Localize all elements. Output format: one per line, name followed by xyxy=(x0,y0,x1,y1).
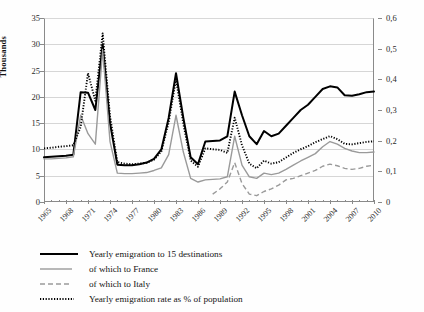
x-axis-tickmark xyxy=(367,200,368,202)
x-axis-tickmark xyxy=(308,200,309,204)
x-axis-tickmark xyxy=(205,200,206,202)
y-axis-left-tick: 25 xyxy=(32,66,41,76)
series-line-total xyxy=(44,44,374,165)
x-axis-tickmark xyxy=(359,200,360,202)
y-axis-right-tickmark xyxy=(378,110,382,111)
legend-label: Yearly emigration to 15 destinations xyxy=(89,249,222,259)
y-axis-right-tick: 0,3 xyxy=(386,105,397,115)
x-axis-tickmark xyxy=(132,200,133,204)
x-axis-tick: 1965 xyxy=(36,206,54,224)
x-axis-tick: 1977 xyxy=(124,206,142,224)
series-line-italy xyxy=(213,163,374,196)
y-axis-right-tick: 0,1 xyxy=(386,166,397,176)
x-axis-tickmark xyxy=(73,200,74,202)
x-axis-tickmark xyxy=(213,200,214,202)
x-axis-tickmark xyxy=(323,200,324,202)
y-axis-left-tick: 20 xyxy=(32,92,41,102)
x-axis-tickmark xyxy=(227,200,228,202)
legend-item[interactable]: Yearly emigration rate as % of populatio… xyxy=(38,291,368,306)
legend-key-rate xyxy=(38,294,84,304)
x-axis-tickmark xyxy=(51,200,52,202)
y-axis-right-tick: 0,5 xyxy=(386,44,397,54)
x-axis-tick: 1968 xyxy=(58,206,76,224)
y-axis-right-labels: 00,10,20,30,40,50,6 xyxy=(378,18,406,202)
x-axis-tickmark xyxy=(264,200,265,204)
chart-legend: Yearly emigration to 15 destinationsof w… xyxy=(38,246,368,306)
x-axis-tickmark xyxy=(161,200,162,202)
y-axis-right-tickmark xyxy=(378,141,382,142)
x-axis-tickmark xyxy=(117,200,118,202)
x-axis-tick: 1992 xyxy=(234,206,252,224)
x-axis-tickmark xyxy=(59,200,60,202)
x-axis-tickmark xyxy=(242,200,243,204)
x-axis-tickmark xyxy=(110,200,111,204)
x-axis-tickmark xyxy=(147,200,148,202)
x-axis-tickmark xyxy=(139,200,140,202)
y-axis-right-tickmark xyxy=(378,171,382,172)
x-axis-tickmark xyxy=(337,200,338,202)
series-layer xyxy=(44,18,374,202)
x-axis-tick: 1995 xyxy=(256,206,274,224)
x-axis-tickmark xyxy=(235,200,236,202)
x-axis-tickmark xyxy=(345,200,346,202)
x-axis-tick: 2001 xyxy=(300,206,318,224)
x-axis-tickmark xyxy=(154,200,155,204)
x-axis-tickmark xyxy=(293,200,294,202)
chart-root: Thousands 05101520253035 00,10,20,30,40,… xyxy=(0,0,424,312)
y-axis-right-tick: 0,4 xyxy=(386,74,397,84)
series-line-rate xyxy=(44,33,374,168)
legend-key-italy xyxy=(38,279,84,289)
x-axis-tick: 2010 xyxy=(366,206,384,224)
x-axis-tickmark xyxy=(191,200,192,202)
x-axis-tickmark xyxy=(271,200,272,202)
x-axis-tickmark xyxy=(125,200,126,202)
x-axis-tickmark xyxy=(249,200,250,202)
legend-label: of which to Italy xyxy=(89,279,150,289)
x-axis-tickmark xyxy=(169,200,170,202)
x-axis-tickmark xyxy=(44,200,45,204)
x-axis-tickmark xyxy=(103,200,104,202)
x-axis-tick: 1971 xyxy=(80,206,98,224)
y-axis-left-tick: 30 xyxy=(32,39,41,49)
legend-key-france xyxy=(38,264,84,274)
x-axis-tickmark xyxy=(257,200,258,202)
y-axis-title: Thousands xyxy=(0,36,14,78)
x-axis-tick: 2004 xyxy=(322,206,340,224)
x-axis-tickmark xyxy=(315,200,316,202)
x-axis-tickmark xyxy=(301,200,302,202)
x-axis-tick: 1983 xyxy=(168,206,186,224)
plot-area xyxy=(44,18,374,202)
x-axis-tickmark xyxy=(81,200,82,202)
x-axis-tick: 2007 xyxy=(344,206,362,224)
x-axis-tick: 1974 xyxy=(102,206,120,224)
legend-key-total xyxy=(38,249,84,259)
x-axis-tickmark xyxy=(374,200,375,204)
x-axis-tickmark xyxy=(183,200,184,202)
x-axis-tickmark xyxy=(352,200,353,204)
x-axis-tickmark xyxy=(279,200,280,202)
y-axis-right-tick: 0,6 xyxy=(386,13,397,23)
x-axis-tickmark xyxy=(88,200,89,204)
legend-item[interactable]: of which to Italy xyxy=(38,276,368,291)
y-axis-right-tickmark xyxy=(378,79,382,80)
legend-item[interactable]: of which to France xyxy=(38,261,368,276)
legend-label: Yearly emigration rate as % of populatio… xyxy=(89,294,243,304)
y-axis-right-tickmark xyxy=(378,202,382,203)
legend-item[interactable]: Yearly emigration to 15 destinations xyxy=(38,246,368,261)
y-axis-left-labels: 05101520253035 xyxy=(16,18,40,202)
y-axis-right-tick: 0 xyxy=(386,197,390,207)
series-line-france xyxy=(44,50,374,182)
x-axis-tick: 1989 xyxy=(212,206,230,224)
x-axis-tickmark xyxy=(330,200,331,204)
legend-label: of which to France xyxy=(89,264,158,274)
y-axis-left-tick: 35 xyxy=(32,13,41,23)
x-axis-tickmark xyxy=(176,200,177,204)
x-axis-tickmark xyxy=(286,200,287,204)
y-axis-right-tick: 0,2 xyxy=(386,136,397,146)
x-axis-tick: 1980 xyxy=(146,206,164,224)
x-axis-tick: 1998 xyxy=(278,206,296,224)
x-axis-tickmark xyxy=(66,200,67,204)
y-axis-right-tickmark xyxy=(378,49,382,50)
y-axis-right-tickmark xyxy=(378,18,382,19)
x-axis-tickmark xyxy=(95,200,96,202)
